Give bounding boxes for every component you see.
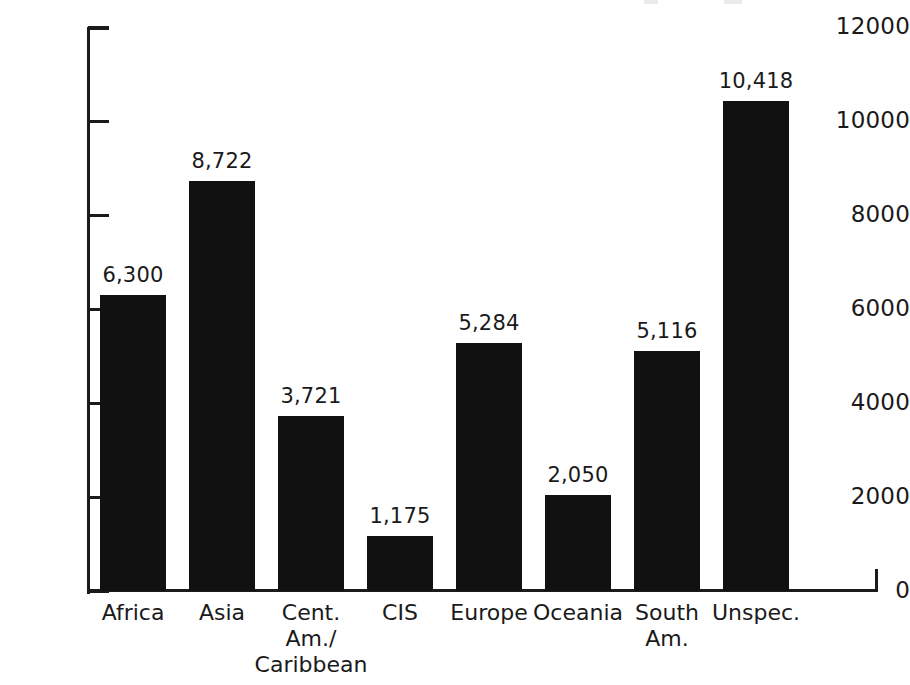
bar[interactable] [189, 181, 255, 591]
bar[interactable] [634, 351, 700, 591]
bar[interactable] [367, 536, 433, 591]
category-label: Unspec. [697, 600, 815, 626]
bar-chart: 120001000080006000400020000 6,3008,7223,… [0, 0, 910, 685]
plot-area [88, 27, 877, 591]
bar-value-label: 10,418 [701, 71, 811, 92]
bar-value-label: 3,721 [256, 386, 366, 407]
bar-value-label: 1,175 [345, 506, 455, 527]
bar[interactable] [723, 101, 789, 591]
bar-value-label: 2,050 [523, 465, 633, 486]
bar-value-label: 5,284 [434, 313, 544, 334]
bar[interactable] [278, 416, 344, 591]
bar[interactable] [100, 295, 166, 591]
bar-value-label: 6,300 [78, 265, 188, 286]
bar[interactable] [456, 343, 522, 591]
bar-value-label: 5,116 [612, 321, 722, 342]
bar[interactable] [545, 495, 611, 591]
bar-value-label: 8,722 [167, 151, 277, 172]
cropped-title-remnant [606, 0, 836, 4]
